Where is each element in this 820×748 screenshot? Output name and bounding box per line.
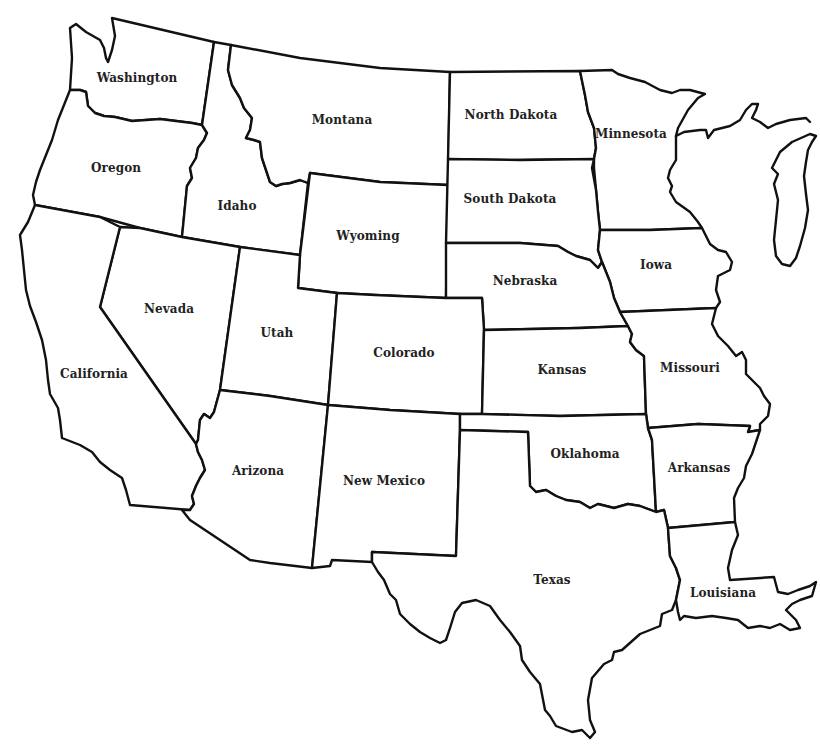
label-new-mexico: New Mexico <box>343 474 425 488</box>
label-arkansas: Arkansas <box>668 461 731 475</box>
label-utah: Utah <box>261 326 294 340</box>
label-oregon: Oregon <box>91 161 141 175</box>
state-louisiana[interactable] <box>668 522 816 630</box>
label-louisiana: Louisiana <box>690 586 756 600</box>
label-missouri: Missouri <box>660 361 720 375</box>
label-california: California <box>60 367 128 381</box>
us-map: Washington Oregon Idaho Montana Wyoming … <box>0 0 820 748</box>
label-nevada: Nevada <box>144 302 194 316</box>
michigan-peninsula <box>772 134 816 266</box>
label-colorado: Colorado <box>373 346 434 360</box>
label-texas: Texas <box>533 573 570 587</box>
label-washington: Washington <box>97 71 178 85</box>
label-nebraska: Nebraska <box>493 274 558 288</box>
state-arizona[interactable] <box>182 390 328 568</box>
label-idaho: Idaho <box>217 199 256 213</box>
label-iowa: Iowa <box>640 258 672 272</box>
label-oklahoma: Oklahoma <box>550 447 619 461</box>
label-north-dakota: North Dakota <box>465 108 558 122</box>
label-arizona: Arizona <box>232 464 284 478</box>
label-wyoming: Wyoming <box>336 229 399 243</box>
label-minnesota: Minnesota <box>595 127 667 141</box>
lake-superior-shoreline <box>676 104 810 138</box>
label-montana: Montana <box>312 113 373 127</box>
state-minnesota[interactable] <box>580 70 705 230</box>
label-south-dakota: South Dakota <box>464 192 557 206</box>
label-kansas: Kansas <box>538 363 587 377</box>
